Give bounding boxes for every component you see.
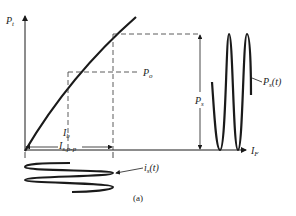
- input-signal-waveform: [25, 163, 113, 192]
- input-signal-label: is(t): [144, 162, 160, 175]
- output-signal-pointer: [252, 78, 262, 82]
- bias-current-label: Ib: [62, 127, 70, 140]
- operating-power-label: Po: [142, 67, 153, 80]
- x-axis-label: IF: [250, 145, 259, 158]
- pp-current-label: Is,p-p: [58, 140, 77, 153]
- y-axis-label: Pt: [5, 15, 15, 28]
- laser-pi-characteristic-diagram: Pt IF Po Ps Ps(t) Ib Is,p-p is(: [0, 0, 296, 216]
- pi-characteristic-curve: [25, 17, 136, 151]
- swing-power-label: Ps: [194, 95, 204, 108]
- output-signal-waveform: [212, 34, 251, 150]
- output-signal-label: Ps(t): [262, 76, 282, 89]
- figure-caption: (a): [133, 193, 143, 203]
- input-signal-pointer: [116, 168, 143, 173]
